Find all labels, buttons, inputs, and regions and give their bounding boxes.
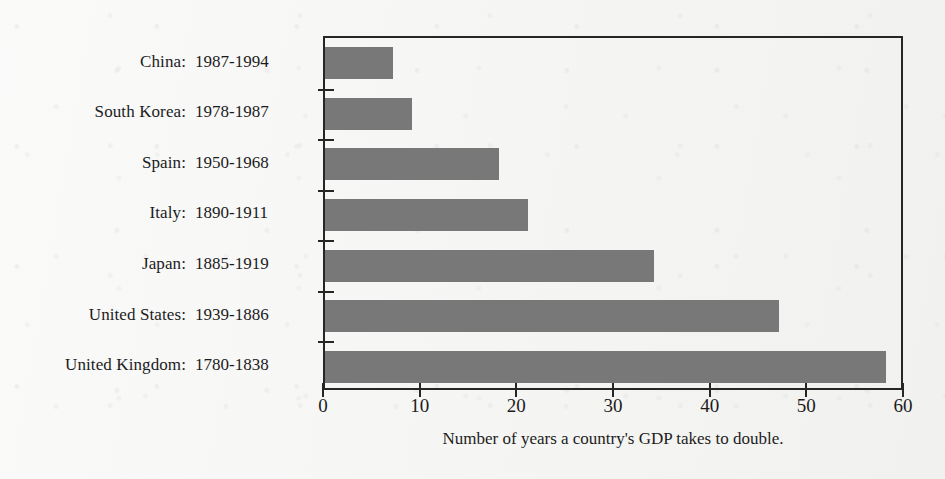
- bar[interactable]: [325, 199, 528, 231]
- bar-slot: [325, 89, 901, 140]
- category-year-range: 1987-1994: [195, 53, 315, 70]
- x-axis-tick-labels: 0102030405060: [323, 396, 903, 420]
- category-country-name: South Korea:: [95, 103, 186, 120]
- category-label-row: South Korea:1978-1987: [0, 87, 315, 138]
- category-country-name: United Kingdom:: [65, 356, 186, 373]
- category-label-row: Italy:1890-1911: [0, 188, 315, 239]
- bar-slot: [325, 139, 901, 190]
- y-axis-tick: [318, 190, 334, 192]
- category-year-range: 1950-1968: [195, 154, 315, 171]
- x-axis-tick-label: 50: [797, 396, 816, 415]
- category-label-row: United States:1939-1886: [0, 289, 315, 340]
- category-country-name: Japan:: [142, 255, 186, 272]
- category-label-row: Japan:1885-1919: [0, 238, 315, 289]
- bar[interactable]: [325, 98, 412, 130]
- y-axis-tick: [318, 89, 334, 91]
- category-year-range: 1890-1911: [195, 204, 315, 221]
- category-year-range: 1780-1838: [195, 356, 315, 373]
- plot-area: [323, 36, 903, 390]
- category-label-row: China:1987-1994: [0, 36, 315, 87]
- category-country-name: China:: [140, 53, 186, 70]
- category-year-range: 1978-1987: [195, 103, 315, 120]
- bar-slot: [325, 240, 901, 291]
- bar-slot: [325, 38, 901, 89]
- category-country-name: United States:: [89, 306, 186, 323]
- bar[interactable]: [325, 351, 886, 383]
- category-label-row: Spain:1950-1968: [0, 137, 315, 188]
- bar[interactable]: [325, 250, 654, 282]
- x-axis-tick-label: 0: [318, 396, 328, 415]
- category-label-row: United Kingdom:1780-1838: [0, 339, 315, 390]
- x-axis-tick-label: 60: [894, 396, 913, 415]
- category-year-range: 1939-1886: [195, 306, 315, 323]
- bar-series: [325, 38, 901, 388]
- category-country-name: Spain:: [142, 154, 186, 171]
- category-country-name: Italy:: [150, 204, 186, 221]
- category-axis-labels: China:1987-1994South Korea:1978-1987Spai…: [0, 36, 315, 390]
- x-axis-title: Number of years a country's GDP takes to…: [323, 430, 903, 447]
- bar[interactable]: [325, 148, 499, 180]
- y-axis-tick: [318, 240, 334, 242]
- y-axis-tick: [318, 341, 334, 343]
- x-axis-tick-label: 10: [410, 396, 429, 415]
- x-axis-tick-label: 40: [700, 396, 719, 415]
- x-axis-tick-label: 20: [507, 396, 526, 415]
- bar-slot: [325, 291, 901, 342]
- bar[interactable]: [325, 300, 779, 332]
- bar-chart: China:1987-1994South Korea:1978-1987Spai…: [0, 0, 945, 479]
- y-axis-tick: [318, 139, 334, 141]
- category-year-range: 1885-1919: [195, 255, 315, 272]
- bar[interactable]: [325, 47, 393, 79]
- bar-slot: [325, 190, 901, 241]
- x-axis-tick-label: 30: [604, 396, 623, 415]
- y-axis-tick: [318, 291, 334, 293]
